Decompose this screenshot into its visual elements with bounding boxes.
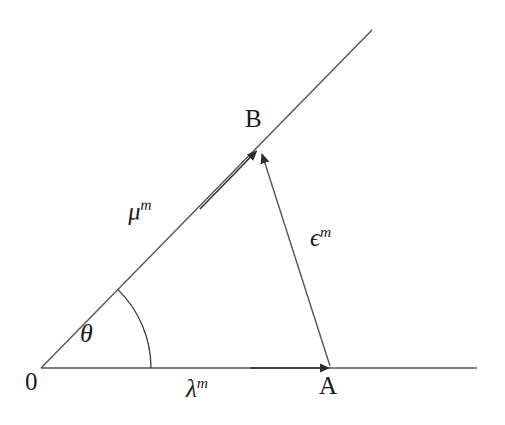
vector-label-epsilon: ϵm [310,224,331,250]
vector-label-mu-base: μ [128,197,141,224]
diagram-svg [0,0,505,425]
vector-label-lambda: λm [186,375,208,401]
inclined-ray-line [41,30,372,368]
vector-label-lambda-base: λ [186,375,197,402]
vector-label-mu-superscript: m [140,196,152,213]
vector-diagram: 0 A B μm ϵm λm θ [0,0,505,425]
point-label-b: B [245,106,262,131]
vector-label-epsilon-base: ϵ [310,224,320,251]
vector-label-epsilon-superscript: m [320,223,331,240]
point-label-a: A [319,373,337,398]
vector-label-mu: μm [128,197,153,224]
epsilon-vector-line [262,154,330,366]
vector-label-lambda-superscript: m [197,374,208,391]
angle-arc [118,290,151,368]
mu-vector-arrow [200,151,257,209]
point-label-origin: 0 [25,369,38,394]
angle-label-theta: θ [80,321,93,347]
